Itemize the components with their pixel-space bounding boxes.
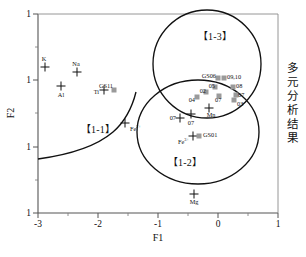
group-1-3-boundary (153, 10, 261, 118)
x-tick-label-2: -1 (154, 219, 162, 229)
point-label-05: 05 (209, 83, 215, 89)
point-label-07-sq-a: 07 (215, 97, 221, 103)
y-tick-label-3: 1 (20, 208, 31, 218)
point-label-Fe2plus: Fe2+ (130, 125, 141, 132)
point-label-07-right: 07 (188, 120, 194, 126)
side-annotation-multivariate-analysis-results: 多元分析结果 (285, 62, 297, 146)
point-label-07-sq-b: 07 (238, 92, 244, 98)
plot-canvas (0, 0, 306, 257)
marker-square-09-10 (222, 76, 227, 81)
point-label-K: K (42, 56, 47, 62)
point-label-08: 08 (236, 83, 242, 89)
point-label-Ti: Ti (94, 89, 99, 95)
point-label-02: 02 (200, 88, 206, 94)
point-label-09-10: 09,10 (227, 74, 241, 80)
point-label-07-left: 07 (170, 115, 176, 121)
group-label-1-2: 【1-2】 (168, 154, 203, 169)
point-label-04: 04 (189, 97, 195, 103)
y-tick-label-1: 1 (20, 75, 31, 85)
marker-square-03 (232, 98, 237, 103)
marker-square-08 (231, 85, 236, 90)
y-axis-title: F2 (5, 102, 16, 124)
group-label-1-1: 【1-1】 (81, 121, 116, 136)
point-label-Mg: Mg (190, 199, 199, 205)
point-label-Al: Al (58, 92, 64, 98)
x-tick-label-4: 1 (276, 219, 281, 229)
y-tick-marks (33, 14, 38, 213)
point-label-Na: Na (72, 61, 79, 67)
x-tick-label-3: 0 (216, 219, 221, 229)
marker-square-GS06 (216, 76, 221, 81)
y-tick-label-2: 1 (20, 142, 31, 152)
y-tick-label-0: 1 (20, 9, 31, 19)
group-label-1-3: 【1-3】 (198, 28, 233, 43)
point-label-Mn: Mn (207, 112, 216, 118)
x-axis-title: F1 (153, 232, 164, 243)
x-tick-label-0: -3 (34, 219, 42, 229)
point-label-03: 03 (237, 101, 243, 107)
marker-square-04 (195, 95, 200, 100)
marker-square-GS01 (197, 134, 202, 139)
x-tick-label-1: -2 (94, 219, 102, 229)
point-label-GS11: GS11 (99, 83, 113, 89)
axes-group (38, 14, 278, 213)
point-label-GS06: GS06 (202, 73, 216, 79)
multivariate-analysis-scatter-figure: -3 -2 -1 0 1 1 1 1 1 F1 F2 多元分析结果 【1-1】 … (0, 0, 306, 257)
point-label-GS01: GS01 (203, 132, 217, 138)
point-label-Fe3plus: Fe3+ (178, 138, 189, 145)
x-tick-marks (38, 213, 278, 218)
